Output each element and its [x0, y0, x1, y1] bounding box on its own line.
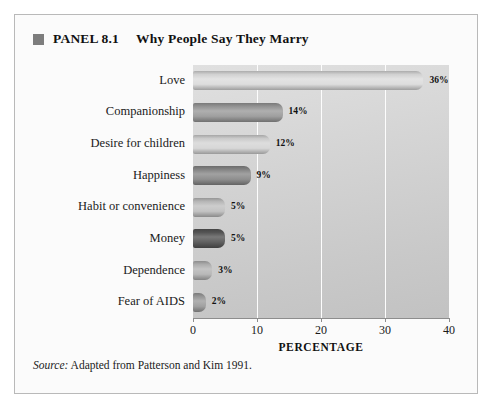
panel-figure-frame: PANEL 8.1 Why People Say They Marry Love…	[14, 14, 478, 394]
x-axis-tick	[449, 318, 450, 322]
x-axis-tick	[257, 318, 258, 322]
source-text: Adapted from Patterson and Kim 1991.	[68, 359, 252, 371]
bar	[193, 293, 206, 312]
bar	[193, 229, 225, 248]
bar	[193, 166, 251, 185]
bar-value-label: 36%	[429, 75, 448, 85]
x-axis-title: PERCENTAGE	[193, 341, 449, 353]
source-prefix: Source:	[33, 359, 68, 371]
x-axis-tick	[321, 318, 322, 322]
gridline	[385, 65, 386, 318]
x-axis-tick-label: 40	[443, 323, 455, 338]
category-label: Money	[25, 231, 193, 246]
bar-value-label: 2%	[212, 296, 226, 306]
category-label: Companionship	[25, 104, 193, 119]
bar-value-label: 9%	[257, 170, 271, 180]
source-note: Source: Adapted from Patterson and Kim 1…	[33, 359, 252, 371]
category-label: Love	[25, 73, 193, 88]
category-label: Desire for children	[25, 136, 193, 151]
category-label: Dependence	[25, 263, 193, 278]
bar	[193, 261, 212, 280]
bar	[193, 71, 423, 90]
x-axis-tick-label: 20	[315, 323, 327, 338]
bar-value-label: 14%	[289, 106, 308, 116]
bar-chart: LoveCompanionshipDesire for childrenHapp…	[15, 15, 479, 395]
x-axis-tick	[385, 318, 386, 322]
category-label: Habit or convenience	[25, 199, 193, 214]
category-label: Happiness	[25, 168, 193, 183]
category-axis-labels: LoveCompanionshipDesire for childrenHapp…	[15, 65, 193, 318]
x-axis-tick-label: 30	[379, 323, 391, 338]
bar	[193, 198, 225, 217]
x-axis-tick	[193, 318, 194, 322]
bar-value-label: 5%	[231, 233, 245, 243]
bar	[193, 135, 270, 154]
bar-value-label: 5%	[231, 201, 245, 211]
category-label: Fear of AIDS	[25, 294, 193, 309]
bar-value-label: 12%	[276, 138, 295, 148]
x-axis-tick-label: 0	[190, 323, 196, 338]
gridline	[321, 65, 322, 318]
bar	[193, 103, 283, 122]
x-axis-tick-label: 10	[251, 323, 263, 338]
bar-value-label: 3%	[218, 265, 232, 275]
